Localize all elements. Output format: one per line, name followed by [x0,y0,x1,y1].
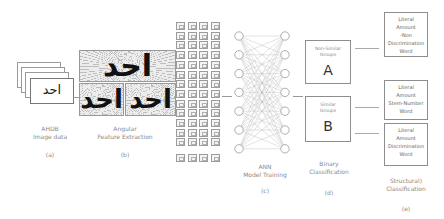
caption-line: Structural) [376,177,436,185]
grid-cell-last [199,154,208,162]
grid-cell [188,109,197,117]
grid-cell [211,80,220,88]
arabic-word: احد [126,84,175,114]
arrow-a-to-nondiscrimination [355,48,379,49]
class-box-line: Discrimination [385,39,427,47]
grid-cell [199,51,208,59]
grid-cell [188,100,197,108]
grid-cell [199,41,208,49]
class-box-line: Discrimination [385,142,427,150]
tag-a: (a) [20,151,80,158]
class-box-line: Word [385,150,427,158]
grid-cell [211,71,220,79]
arrow-b-to-stem-number [355,107,379,108]
caption-line: AHDB [20,125,80,133]
class-box-line: Amount [385,23,427,31]
grid-cell [188,138,197,146]
grid-cell [176,41,185,49]
ann-node [281,145,289,153]
ann-node [281,69,289,77]
group-a-box: Non-Similar Groups A [305,40,351,84]
tag-d: (d) [300,189,358,196]
class-box-non-discrimination: LiteralAmount-NonDiscriminationWord [384,12,428,57]
grid-cell [211,41,220,49]
class-box-discrimination: LiteralAmountDiscriminationWord [384,123,428,166]
feature-panel-top: احد [79,50,176,82]
grid-cell-last [188,154,197,162]
arrow-b-to-discrimination [355,133,379,134]
grid-cell [211,90,220,98]
grid-cell [176,119,185,127]
grid-cell [188,119,197,127]
grid-cell [176,32,185,40]
grid-cell [199,80,208,88]
ann-node [235,88,243,96]
grid-cell [176,100,185,108]
ann-node [235,145,243,153]
group-b-box: Similar Groups B [305,96,351,142]
caption-ann: ANN Model Training [235,163,295,179]
tag-c: (c) [235,187,295,194]
grid-cell [211,22,220,30]
class-box-line: Amount [385,91,427,99]
caption-line: ANN [235,163,295,171]
grid-cell-last [176,154,185,162]
caption-line: Model Training [235,171,295,179]
tag-b: (b) [85,151,165,158]
grid-cell [211,129,220,137]
class-box-line: Literal [385,126,427,134]
grid-cell [211,51,220,59]
ann-node [281,126,289,134]
ann-node [281,51,289,59]
caption-line: Classification [376,185,436,193]
class-box-stem-number: LiteralAmountStem-NumberWord [384,80,428,120]
grid-cell [176,80,185,88]
class-box-line: Stem-Number [385,99,427,107]
grid-cell [188,22,197,30]
label-line: Groups [306,108,350,114]
grid-cell [199,71,208,79]
caption-line: Angular [85,125,165,133]
grid-cell [211,61,220,69]
arabic-word: احد [80,51,175,81]
grid-cell [188,90,197,98]
grid-cell [211,109,220,117]
grid-cell [211,138,220,146]
grid-cell [211,100,220,108]
grid-cell [176,129,185,137]
grid-cell-last [211,154,220,162]
grid-cell [176,61,185,69]
grid-cell [199,61,208,69]
ann-node [281,32,289,40]
image-card-front: احد [30,78,74,104]
caption-angular: Angular Feature Extraction [85,125,165,141]
arrow-ann-to-groups [293,96,303,97]
caption-line: Classification [300,168,358,176]
arabic-word: احد [31,79,73,101]
tag-e: (e) [376,205,436,212]
grid-cell [188,32,197,40]
caption-line: Feature Extraction [85,133,165,141]
ann-node [235,107,243,115]
grid-cell [199,138,208,146]
grid-cell [199,22,208,30]
grid-cell [188,80,197,88]
grid-cell [188,41,197,49]
grid-cell [188,51,197,59]
arabic-word: احد [80,84,123,114]
ann-node [235,51,243,59]
grid-cell [176,22,185,30]
grid-cell [176,109,185,117]
class-box-line: Word [385,107,427,115]
grid-cell [176,51,185,59]
grid-cell [188,71,197,79]
group-b-label: Similar Groups [306,97,350,114]
grid-cell [199,119,208,127]
caption-line: Image data [20,133,80,141]
label-line: Groups [306,52,350,58]
grid-cell [176,71,185,79]
group-a-letter: A [306,62,350,78]
grid-cell [199,129,208,137]
connector-grid-ann [222,96,232,97]
class-box-line: Amount [385,134,427,142]
